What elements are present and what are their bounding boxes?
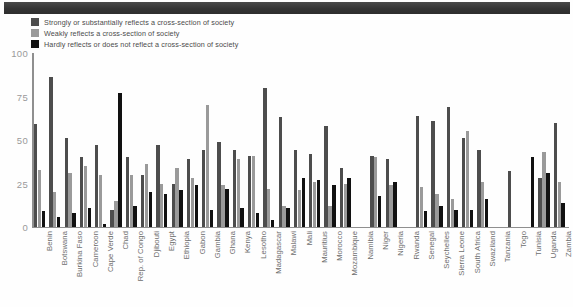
bar-segment[interactable]: [279, 117, 282, 227]
bar-segment[interactable]: [49, 77, 52, 227]
bar-segment[interactable]: [431, 121, 434, 227]
y-axis-tick-label: 25: [17, 178, 28, 189]
bar-segment[interactable]: [221, 185, 224, 227]
bar-segment[interactable]: [133, 206, 136, 227]
bar-segment[interactable]: [439, 206, 442, 227]
bar-segment[interactable]: [470, 210, 473, 227]
bar-segment[interactable]: [118, 93, 121, 227]
bar-segment[interactable]: [99, 175, 102, 227]
bar-segment[interactable]: [195, 185, 198, 227]
bar-segment[interactable]: [466, 131, 469, 227]
bar-segment[interactable]: [538, 178, 541, 227]
bar-segment[interactable]: [130, 175, 133, 227]
bar-segment[interactable]: [561, 203, 564, 227]
bar-segment[interactable]: [114, 201, 117, 227]
bar-segment[interactable]: [233, 150, 236, 227]
bar-segment[interactable]: [53, 192, 56, 227]
bar-segment[interactable]: [237, 159, 240, 227]
bar-segment[interactable]: [332, 185, 335, 227]
bar-segment[interactable]: [145, 164, 148, 227]
bar-segment[interactable]: [317, 180, 320, 227]
bar-segment[interactable]: [294, 150, 297, 227]
bar-segment[interactable]: [481, 182, 484, 227]
bar-segment[interactable]: [72, 213, 75, 227]
bar-segment[interactable]: [34, 124, 37, 227]
legend-item[interactable]: Strongly or substantially reflects a cro…: [31, 17, 331, 27]
bar-segment[interactable]: [110, 210, 113, 227]
bar-segment[interactable]: [389, 185, 392, 227]
bar-segment[interactable]: [393, 182, 396, 227]
bar-segment[interactable]: [485, 199, 488, 227]
bar-segment[interactable]: [420, 187, 423, 227]
bar-segment[interactable]: [88, 208, 91, 227]
bar-segment[interactable]: [378, 196, 381, 227]
bar-segment[interactable]: [302, 178, 305, 227]
legend-item[interactable]: Weakly reflects a cross-section of socie…: [31, 28, 331, 38]
bar-segment[interactable]: [558, 182, 561, 227]
bar-segment[interactable]: [546, 173, 549, 227]
bar-segment[interactable]: [370, 156, 373, 227]
bar-segment[interactable]: [267, 189, 270, 227]
bar-segment[interactable]: [424, 211, 427, 227]
bar-segment[interactable]: [347, 178, 350, 227]
bar-segment[interactable]: [542, 152, 545, 227]
bar-segment[interactable]: [175, 168, 178, 227]
bar-segment[interactable]: [271, 220, 274, 227]
bar-segment[interactable]: [80, 157, 83, 227]
bar-segment[interactable]: [282, 206, 285, 227]
bar-segment[interactable]: [344, 184, 347, 228]
bar-segment[interactable]: [328, 206, 331, 227]
bar-segment[interactable]: [202, 150, 205, 227]
bar-segment[interactable]: [38, 170, 41, 227]
bar-segment[interactable]: [374, 157, 377, 227]
bar-segment[interactable]: [340, 168, 343, 227]
bar-segment[interactable]: [531, 157, 534, 227]
bar-segment[interactable]: [554, 123, 557, 227]
bar-segment[interactable]: [95, 145, 98, 227]
bar-segment[interactable]: [42, 211, 45, 227]
x-axis-label: Burkina Faso: [75, 231, 84, 277]
bar-segment[interactable]: [160, 184, 163, 228]
bar-segment[interactable]: [179, 190, 182, 227]
bar-segment[interactable]: [149, 192, 152, 227]
bar-segment[interactable]: [435, 194, 438, 227]
bar-segment[interactable]: [451, 199, 454, 227]
bar-segment[interactable]: [172, 184, 175, 228]
bar-segment[interactable]: [386, 159, 389, 227]
bar-segment[interactable]: [508, 171, 511, 227]
bar-segment[interactable]: [313, 182, 316, 227]
bar-segment[interactable]: [84, 166, 87, 227]
bar-segment[interactable]: [256, 213, 259, 227]
bar-segment[interactable]: [210, 210, 213, 227]
bar-segment[interactable]: [309, 154, 312, 227]
bar-segment[interactable]: [65, 138, 68, 227]
bar-segment[interactable]: [217, 142, 220, 227]
bar-segment[interactable]: [462, 138, 465, 227]
bar-segment[interactable]: [298, 190, 301, 227]
bar-segment[interactable]: [103, 224, 106, 227]
bar-segment[interactable]: [57, 217, 60, 227]
bar-group: [294, 53, 309, 227]
bar-group: [279, 53, 294, 227]
bar-segment[interactable]: [206, 105, 209, 227]
bar-segment[interactable]: [141, 175, 144, 227]
bar-segment[interactable]: [164, 194, 167, 227]
bar-segment[interactable]: [454, 210, 457, 227]
bar-segment[interactable]: [252, 156, 255, 227]
bar-segment[interactable]: [156, 145, 159, 227]
x-axis-label: Morocco: [335, 231, 344, 261]
bar-segment[interactable]: [416, 116, 419, 227]
bar-segment[interactable]: [324, 126, 327, 227]
bar-segment[interactable]: [225, 189, 228, 227]
bar-segment[interactable]: [191, 178, 194, 227]
bar-segment[interactable]: [68, 173, 71, 227]
bar-segment[interactable]: [126, 157, 129, 227]
bar-segment[interactable]: [477, 150, 480, 227]
bar-segment[interactable]: [240, 208, 243, 227]
bar-segment[interactable]: [263, 88, 266, 227]
bar-segment[interactable]: [286, 208, 289, 227]
bar-segment[interactable]: [187, 159, 190, 227]
bar-segment[interactable]: [447, 107, 450, 227]
bar-segment[interactable]: [248, 156, 251, 227]
bar-group: [263, 53, 278, 227]
